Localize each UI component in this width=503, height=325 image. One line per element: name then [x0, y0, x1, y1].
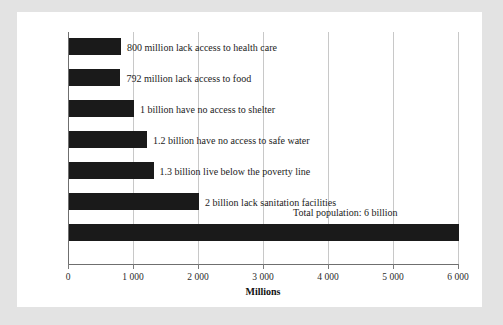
- bar: [69, 162, 154, 179]
- x-tick-label: 4 000: [317, 272, 338, 282]
- bar-label: 792 million lack access to food: [126, 72, 251, 83]
- tick-2000: [198, 264, 199, 269]
- bar: [69, 224, 459, 241]
- chart-screenshot: { "chart_data": { "type": "bar", "orient…: [0, 0, 503, 325]
- chart-card: 01 0002 0003 0004 0005 0006 000 800 mill…: [17, 12, 482, 307]
- tick-6000: [458, 264, 459, 269]
- tick-1000: [133, 264, 134, 269]
- bar-label: 1.3 billion live below the poverty line: [160, 165, 311, 176]
- bar: [69, 193, 199, 210]
- plot-area: 01 0002 0003 0004 0005 0006 000 800 mill…: [68, 32, 458, 264]
- x-tick-label: 0: [66, 272, 71, 282]
- bar-label: 1 billion have no access to shelter: [140, 103, 275, 114]
- x-tick-label: 5 000: [382, 272, 403, 282]
- tick-4000: [328, 264, 329, 269]
- bar: [69, 131, 147, 148]
- bar: [69, 100, 134, 117]
- x-tick-label: 2 000: [187, 272, 208, 282]
- bar-label: 1.2 billion have no access to safe water: [153, 134, 310, 145]
- tick-5000: [393, 264, 394, 269]
- bar-label: 800 million lack access to health care: [127, 41, 277, 52]
- x-tick-label: 1 000: [122, 272, 143, 282]
- x-axis-title: Millions: [68, 286, 458, 297]
- bar: [69, 38, 121, 55]
- x-tick-label: 3 000: [252, 272, 273, 282]
- bar-label: 2 billion lack sanitation facilities: [205, 196, 336, 207]
- x-tick-label: 6 000: [447, 272, 468, 282]
- tick-0: [68, 264, 69, 269]
- total-population-annotation: Total population: 6 billion: [293, 207, 398, 218]
- bar: [69, 69, 120, 86]
- tick-3000: [263, 264, 264, 269]
